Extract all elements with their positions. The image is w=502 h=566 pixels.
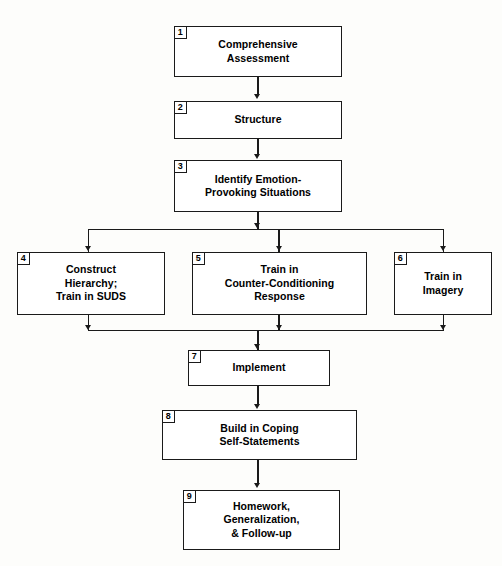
node-number-badge-7: 7 (188, 350, 201, 363)
flowchart-node-1[interactable]: 1 Comprehensive Assessment (174, 26, 342, 77)
flowchart-node-8[interactable]: 8 Build in Coping Self-Statements (162, 410, 357, 460)
flowchart-node-2[interactable]: 2 Structure (174, 101, 342, 139)
flowchart-node-4[interactable]: 4 Construct Hierarchy; Train in SUDS (17, 252, 165, 315)
node-label-1: Comprehensive Assessment (212, 38, 303, 65)
node-label-7: Implement (227, 361, 292, 375)
connector-8-to-9 (257, 460, 258, 484)
arrowhead-merge-to-node-7 (254, 344, 260, 349)
flowchart-node-3[interactable]: 3 Identify Emotion- Provoking Situations (174, 160, 342, 212)
node-number-badge-3: 3 (174, 160, 187, 173)
branch-bus-horizontal (88, 229, 443, 230)
connector-7-to-8 (257, 386, 258, 405)
flowchart-node-6[interactable]: 6 Train in Imagery (394, 252, 492, 315)
flowchart-node-9[interactable]: 9 Homework, Generalization, & Follow-up (183, 490, 340, 550)
node-number-badge-4: 4 (17, 252, 30, 265)
arrowhead-branch-to-node-6 (440, 246, 446, 251)
connector-2-to-3 (257, 139, 258, 155)
flowchart-node-7[interactable]: 7 Implement (188, 350, 330, 386)
node-number-badge-2: 2 (174, 101, 187, 114)
node-label-8: Build in Coping Self-Statements (213, 422, 305, 449)
node-label-9: Homework, Generalization, & Follow-up (217, 500, 305, 541)
flowchart-canvas: 1 Comprehensive Assessment 2 Structure 3… (0, 0, 502, 566)
node-label-4: Construct Hierarchy; Train in SUDS (50, 263, 132, 304)
merge-bus-horizontal (88, 330, 444, 331)
node-number-badge-9: 9 (183, 490, 196, 503)
node-number-badge-6: 6 (394, 252, 407, 265)
arrowhead-branch-to-node-4 (85, 246, 91, 251)
node-label-3: Identify Emotion- Provoking Situations (199, 173, 317, 200)
arrowhead-1-to-2 (254, 94, 260, 99)
node-label-2: Structure (228, 113, 287, 127)
arrowhead-7-to-8 (254, 404, 260, 409)
node-number-badge-5: 5 (192, 252, 205, 265)
node-label-6: Train in Imagery (417, 270, 470, 297)
arrowhead-3-to-branch (254, 223, 260, 228)
arrowhead-2-to-3 (254, 154, 260, 159)
arrowhead-branch-to-node-5 (276, 246, 282, 251)
flowchart-node-5[interactable]: 5 Train in Counter-Conditioning Response (192, 252, 367, 315)
node-number-badge-8: 8 (162, 410, 175, 423)
node-label-5: Train in Counter-Conditioning Response (219, 263, 340, 304)
connector-1-to-2 (257, 77, 258, 95)
node-number-badge-1: 1 (174, 26, 187, 39)
arrowhead-8-to-9 (254, 483, 260, 488)
